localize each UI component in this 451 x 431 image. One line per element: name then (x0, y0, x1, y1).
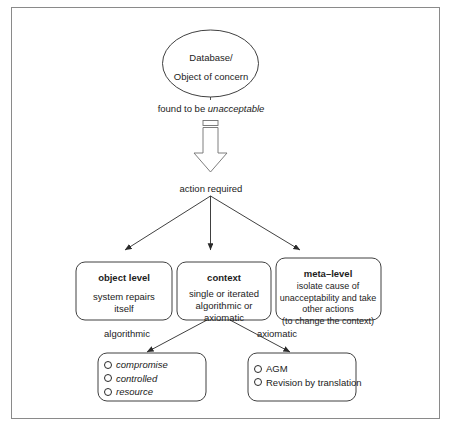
meta-level-title: meta–level (278, 268, 378, 280)
flowchart-diagram: Database/ Object of concern found to be … (0, 0, 451, 431)
bullet-circle-icon (104, 361, 112, 369)
context-body-line2: algorithmic or (178, 300, 270, 312)
meta-level-body-line2: unacceptability and take (274, 293, 382, 305)
list-item-label: AGM (266, 362, 288, 376)
bullet-circle-icon (104, 388, 112, 396)
unacceptable-emphasis: unacceptable (208, 103, 265, 114)
bullet-circle-icon (104, 374, 112, 382)
object-level-body-line1: system repairs (78, 291, 170, 303)
start-node-line1: Database/ (163, 48, 259, 67)
list-item-label: compromise (116, 358, 168, 372)
found-to-be-label: found to be unacceptable (141, 102, 281, 115)
algorithmic-methods-list: compromise controlled resource (104, 358, 168, 399)
bullet-circle-icon (254, 365, 262, 373)
block-arrow (194, 128, 227, 173)
list-item-label: Revision by translation (266, 376, 362, 390)
list-item-label: controlled (116, 372, 157, 386)
context-title: context (180, 272, 268, 284)
block-arrow-cap (203, 121, 218, 126)
object-level-title: object level (78, 272, 170, 284)
context-body: single or iterated algorithmic or axioma… (178, 288, 270, 324)
arrow-action-to-meta-level (211, 196, 301, 250)
list-item: resource (104, 385, 168, 399)
list-item: AGM (254, 362, 362, 376)
start-node-label: Database/ Object of concern (163, 48, 259, 86)
list-item: controlled (104, 372, 168, 386)
found-to-be-text: found to be (158, 103, 208, 114)
edge-label-axiomatic: axiomatic (242, 327, 312, 340)
list-item: compromise (104, 358, 168, 372)
meta-level-body-line3: other actions (274, 304, 382, 316)
start-node-line2: Object of concern (163, 67, 259, 86)
edge-label-algorithmic: algorithmic (92, 327, 162, 340)
meta-level-body-line4: (to change the context) (274, 316, 382, 328)
meta-level-body: isolate cause of unacceptability and tak… (274, 281, 382, 327)
object-level-body-line2: itself (78, 303, 170, 315)
bullet-circle-icon (254, 378, 262, 386)
meta-level-body-line1: isolate cause of (274, 281, 382, 293)
context-body-line3: axiomatic (178, 312, 270, 324)
object-level-body: system repairs itself (78, 291, 170, 315)
list-item-label: resource (116, 385, 153, 399)
arrow-action-to-object-level (125, 196, 211, 250)
axiomatic-methods-list: AGM Revision by translation (254, 362, 362, 389)
context-body-line1: single or iterated (178, 288, 270, 300)
action-required-label: action required (156, 182, 266, 195)
list-item: Revision by translation (254, 376, 362, 390)
